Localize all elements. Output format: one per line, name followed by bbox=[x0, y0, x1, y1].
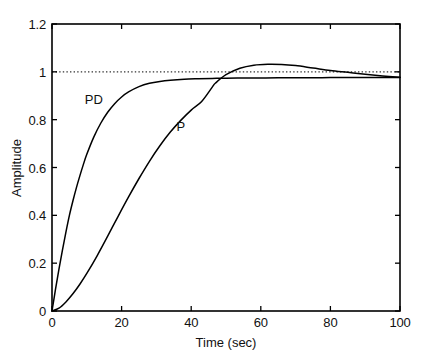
y-tick-label: 1.2 bbox=[0, 17, 46, 32]
y-tick-label: 0.2 bbox=[0, 256, 46, 271]
x-tick-label: 0 bbox=[48, 315, 55, 330]
y-tick-label: 0 bbox=[0, 304, 46, 319]
series-annotation-P: P bbox=[176, 118, 185, 133]
x-tick-label: 20 bbox=[115, 315, 129, 330]
x-axis-title: Time (sec) bbox=[196, 335, 257, 350]
x-tick-label: 40 bbox=[184, 315, 198, 330]
x-tick-label: 60 bbox=[254, 315, 268, 330]
figure-container: 00.20.40.60.811.2 020406080100 PDP Time … bbox=[0, 0, 426, 354]
y-axis-title: Amplitude bbox=[9, 139, 24, 197]
x-tick-label: 100 bbox=[389, 315, 410, 330]
y-tick-label: 0.4 bbox=[0, 208, 46, 223]
series-annotation-PD: PD bbox=[85, 92, 103, 107]
plot-background bbox=[52, 24, 400, 311]
plot-canvas bbox=[0, 0, 426, 354]
x-tick-label: 80 bbox=[323, 315, 337, 330]
y-tick-label: 0.8 bbox=[0, 112, 46, 127]
y-tick-label: 1 bbox=[0, 64, 46, 79]
